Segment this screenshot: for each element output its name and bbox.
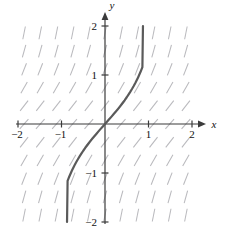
- slope-field-dash: [71, 45, 74, 58]
- slope-field-dash: [118, 82, 124, 93]
- slope-field-dash: [119, 191, 122, 204]
- slope-field-dash: [167, 63, 172, 75]
- slope-field-dash: [184, 173, 189, 185]
- slope-field-dash: [133, 137, 141, 147]
- slope-field-dash: [39, 26, 42, 39]
- slope-field-dash: [38, 173, 43, 185]
- y-tick-label: 1: [92, 69, 98, 81]
- slope-field-dash: [52, 101, 60, 111]
- slope-field-dash: [22, 173, 27, 185]
- slope-field-dash: [150, 82, 156, 93]
- slope-field-dash: [20, 101, 28, 111]
- slope-field-dash: [39, 45, 42, 58]
- slope-field-dash: [55, 209, 58, 222]
- x-tick-label: 2: [189, 128, 195, 140]
- slope-field-dash: [119, 45, 122, 58]
- slope-field-dash: [133, 101, 141, 111]
- slope-field-dash: [22, 63, 27, 75]
- slope-field-dash: [184, 45, 187, 58]
- x-tick-label: −2: [11, 128, 23, 140]
- y-tick-label: 2: [92, 20, 98, 32]
- slope-field-dash: [37, 82, 43, 93]
- slope-field-dash: [36, 101, 44, 111]
- slope-field-dash: [36, 137, 44, 147]
- slope-field-dash: [69, 82, 75, 93]
- slope-field-dash: [136, 45, 139, 58]
- slope-field-dash: [136, 191, 139, 204]
- slope-field-dash: [39, 209, 42, 222]
- slope-field-dash: [21, 82, 27, 93]
- slope-field-dash: [183, 155, 189, 166]
- slope-field-dash: [71, 209, 74, 222]
- y-axis-label: y: [109, 0, 115, 11]
- slope-field-dash: [23, 209, 26, 222]
- slope-field-dash: [119, 63, 124, 75]
- slope-field-dash: [150, 101, 158, 111]
- x-axis-label: x: [211, 118, 217, 130]
- y-axis-arrow: [102, 12, 109, 20]
- slope-field-dash: [182, 101, 190, 111]
- slope-field-figure: −2−11221−1−2xy: [0, 0, 229, 231]
- slope-field-dash: [167, 173, 172, 185]
- slope-field-dash: [69, 137, 77, 147]
- slope-field-dash: [86, 155, 92, 166]
- slope-field-dash: [71, 26, 74, 39]
- slope-field-dash: [118, 155, 124, 166]
- slope-field-dash: [152, 191, 155, 204]
- x-axis-arrow: [198, 121, 206, 128]
- slope-field-dash: [168, 209, 171, 222]
- slope-field-dash: [151, 173, 156, 185]
- slope-field-dash: [183, 82, 189, 93]
- slope-field-dash: [184, 63, 189, 75]
- slope-field-dash: [185, 209, 188, 222]
- slope-field-dash: [70, 63, 75, 75]
- slope-field-dash: [117, 137, 125, 147]
- slope-field-dash: [152, 45, 155, 58]
- slope-field-dash: [23, 26, 26, 39]
- slope-field-dash: [151, 63, 156, 75]
- slope-field-dash: [134, 155, 140, 166]
- slope-field-dash: [54, 63, 59, 75]
- slope-field-dash: [152, 26, 155, 39]
- slope-field-dash: [39, 191, 42, 204]
- x-tick-label: −1: [55, 128, 67, 140]
- y-tick-label: −2: [85, 216, 97, 228]
- slope-field-dash: [86, 82, 92, 93]
- slope-field-dash: [167, 155, 173, 166]
- slope-field-dash: [135, 173, 140, 185]
- slope-field-dash: [55, 191, 58, 204]
- slope-field-dash: [120, 26, 123, 39]
- slope-field-dash: [54, 173, 59, 185]
- slope-field-dash: [120, 209, 123, 222]
- slope-field-dash: [22, 191, 25, 204]
- slope-field-dash: [166, 101, 174, 111]
- slope-field-dash: [22, 45, 25, 58]
- slope-field-dash: [87, 191, 90, 204]
- slope-field-dash: [168, 191, 171, 204]
- slope-field-dash: [71, 191, 74, 204]
- plot-canvas: −2−11221−1−2xy: [0, 0, 229, 231]
- slope-field-dash: [85, 101, 93, 111]
- slope-field-dash: [168, 45, 171, 58]
- x-tick-label: 1: [146, 128, 152, 140]
- y-tick-label: −1: [85, 167, 97, 179]
- slope-field-dash: [53, 82, 59, 93]
- slope-field-dash: [53, 155, 59, 166]
- slope-field-dash: [136, 26, 139, 39]
- slope-field-dash: [150, 155, 156, 166]
- slope-field-dash: [136, 209, 139, 222]
- slope-field-dash: [168, 26, 171, 39]
- slope-field-dash: [152, 209, 155, 222]
- slope-field-dash: [55, 45, 58, 58]
- slope-field-dash: [119, 173, 124, 185]
- slope-field-dash: [21, 155, 27, 166]
- slope-field-dash: [88, 26, 91, 39]
- slope-field-dash: [55, 26, 58, 39]
- slope-field-dash: [87, 45, 90, 58]
- slope-field-dash: [69, 101, 77, 111]
- slope-field-dash: [185, 26, 188, 39]
- slope-field-dash: [166, 137, 174, 147]
- slope-field-dash: [37, 155, 43, 166]
- slope-field-dash: [167, 82, 173, 93]
- slope-field-dash: [38, 63, 43, 75]
